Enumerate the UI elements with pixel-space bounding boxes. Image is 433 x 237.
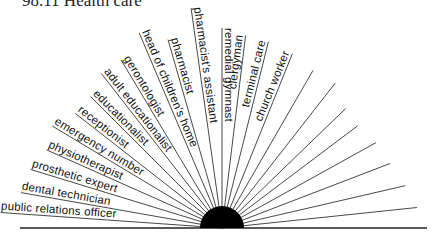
fan-ray-unlabeled	[222, 109, 346, 229]
occupation-label: pharmacist's assistant	[192, 6, 220, 124]
fan-ray-unlabeled	[222, 143, 376, 228]
hub-semicircle	[200, 206, 244, 228]
sunburst-occupation-diagram: public relations officerdental technicia…	[0, 0, 433, 237]
fan-ray-unlabeled	[222, 208, 417, 229]
